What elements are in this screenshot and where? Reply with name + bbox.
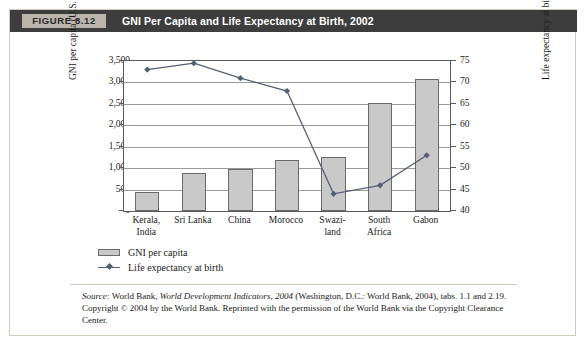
line-marker xyxy=(330,191,336,197)
y-axis-right-tick-mark xyxy=(451,210,456,211)
legend-item-life-expectancy: Life expectancy at birth xyxy=(98,260,398,275)
source-divider xyxy=(70,284,517,285)
y-axis-right-tick-label: 60 xyxy=(460,119,470,129)
line-series-life-expectancy xyxy=(124,61,450,211)
chart-area: GNI per capita (U.S. dollars), 2002 Life… xyxy=(10,32,577,337)
line-marker xyxy=(237,75,243,81)
line-marker xyxy=(284,88,290,94)
y-axis-right-tick-mark xyxy=(451,60,456,61)
y-axis-right-tick-mark xyxy=(451,189,456,190)
y-axis-right-tick-label: 75 xyxy=(460,55,470,65)
figure-page: FIGURE 8.12 GNI Per Capita and Life Expe… xyxy=(0,0,585,345)
y-axis-right-title: Life expectancy at birth (years), 2002 xyxy=(541,0,555,80)
source-text-a: World Bank, xyxy=(110,291,160,301)
source-copyright: Copyright © 2004 by the World Bank. Repr… xyxy=(82,303,503,325)
figure-header-bar: FIGURE 8.12 GNI Per Capita and Life Expe… xyxy=(10,10,577,32)
source-prefix: Source: xyxy=(82,291,110,301)
y-axis-right-tick-mark xyxy=(451,146,456,147)
y-axis-right-tick-label: 55 xyxy=(460,141,470,151)
legend-label-gni: GNI per capita xyxy=(128,245,187,260)
y-axis-right-tick-label: 50 xyxy=(460,162,470,172)
y-axis-right-tick-label: 45 xyxy=(460,184,470,194)
line-marker xyxy=(144,66,150,72)
plot-canvas xyxy=(123,60,451,212)
x-axis-label-line: Africa xyxy=(348,227,411,239)
line-marker xyxy=(377,182,383,188)
figure-number-label: FIGURE 8.12 xyxy=(22,14,106,28)
source-note: Source: World Bank, World Development In… xyxy=(82,290,512,327)
x-axis-label: Gabon xyxy=(394,215,457,227)
y-axis-right-tick-mark xyxy=(451,81,456,82)
figure-title: GNI Per Capita and Life Expectancy at Bi… xyxy=(122,14,374,28)
y-axis-right-tick-mark xyxy=(451,103,456,104)
y-axis-left-title: GNI per capita (U.S. dollars), 2002 xyxy=(68,0,82,80)
legend-label-life-expectancy: Life expectancy at birth xyxy=(128,260,223,275)
source-publication-title: World Development Indicators, 2004 xyxy=(160,291,293,301)
line-marker xyxy=(424,152,430,158)
y-axis-right-tick-label: 40 xyxy=(460,205,470,215)
legend-bar-swatch-icon xyxy=(98,249,120,256)
chart-legend: GNI per capita Life expectancy at birth xyxy=(98,245,398,275)
x-axis-label-line: India xyxy=(115,227,178,239)
legend-item-gni-per-capita: GNI per capita xyxy=(98,245,398,260)
y-axis-right-tick-mark xyxy=(451,124,456,125)
y-axis-right-tick-label: 65 xyxy=(460,98,470,108)
plot-wrapper: GNI per capita (U.S. dollars), 2002 Life… xyxy=(10,32,577,242)
line-path xyxy=(147,63,426,194)
y-axis-right-tick-label: 70 xyxy=(460,76,470,86)
y-axis-right-tick-mark xyxy=(451,167,456,168)
figure-card: FIGURE 8.12 GNI Per Capita and Life Expe… xyxy=(9,9,576,336)
legend-marker-icon xyxy=(106,263,113,270)
line-marker xyxy=(191,60,197,66)
source-text-b: (Washington, D.C.: World Bank, 2004), ta… xyxy=(293,291,506,301)
x-axis-label-line: Gabon xyxy=(394,215,457,227)
